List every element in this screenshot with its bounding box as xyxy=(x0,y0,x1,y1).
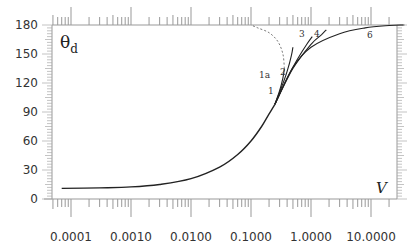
y-tick-label: 60 xyxy=(23,134,38,148)
curve-main xyxy=(62,104,275,188)
y-tick-label: 90 xyxy=(23,105,38,119)
y-tick-label: 150 xyxy=(15,47,38,61)
chart: 03060901201501800.00010.00100.01000.1000… xyxy=(0,0,420,246)
branch-label-6: 6 xyxy=(367,30,373,40)
y-tick-label: 0 xyxy=(30,192,38,206)
curves xyxy=(62,25,404,188)
branch-label-3: 3 xyxy=(299,29,305,39)
x-tick-label: 1.0000 xyxy=(290,230,332,244)
x-axis-title: V xyxy=(376,179,389,197)
axes-frame xyxy=(42,7,407,217)
branch-label-1a: 1a xyxy=(259,70,271,80)
x-tick-label: 0.0100 xyxy=(170,230,212,244)
x-tick-label: 0.0001 xyxy=(50,230,92,244)
y-tick-label: 120 xyxy=(15,76,38,90)
y-axis-title: θd xyxy=(60,32,78,56)
x-tick-label: 10.0000 xyxy=(346,230,396,244)
branch-label-1: 1 xyxy=(268,86,274,96)
y-tick-label: 30 xyxy=(23,163,38,177)
y-tick-label: 180 xyxy=(15,18,38,32)
x-tick-label: 0.1000 xyxy=(230,230,272,244)
branch-label-2: 2 xyxy=(280,67,286,77)
curve-6 xyxy=(275,25,404,104)
branch-label-4: 4 xyxy=(314,29,320,39)
x-tick-label: 0.0010 xyxy=(110,230,152,244)
curve-1a xyxy=(251,25,284,69)
